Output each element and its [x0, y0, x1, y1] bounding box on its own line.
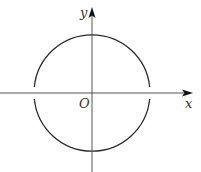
coordinate-diagram: y x O — [0, 0, 201, 172]
y-axis-label: y — [79, 5, 88, 20]
x-axis-label: x — [185, 96, 193, 111]
origin-label: O — [79, 96, 90, 111]
